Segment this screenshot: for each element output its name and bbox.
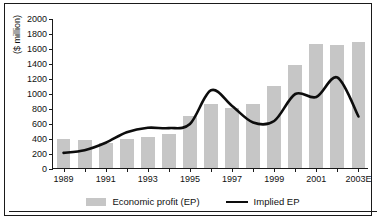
plot-area: 0200400600800100012001400160018002000 19… — [52, 19, 368, 169]
y-axis-title: ($ million) — [12, 15, 22, 54]
legend-label-implied-ep: Implied EP — [254, 196, 300, 207]
y-tick-label: 1000 — [27, 90, 47, 99]
x-tick-label: 2001 — [306, 174, 326, 184]
y-tick — [49, 169, 53, 170]
x-tick-label: 2003E — [345, 174, 371, 184]
chart-figure: ($ million) 0200400600800100012001400160… — [0, 0, 378, 221]
x-tick-label: 1989 — [54, 174, 74, 184]
y-tick-label: 2000 — [27, 15, 47, 24]
y-tick-label: 1400 — [27, 60, 47, 69]
line-series-implied-ep — [53, 19, 369, 169]
y-tick-label: 0 — [42, 165, 47, 174]
legend-item-implied-ep: Implied EP — [226, 196, 300, 207]
y-tick-label: 200 — [32, 150, 47, 159]
y-tick-label: 400 — [32, 135, 47, 144]
x-tick-label: 1995 — [180, 174, 200, 184]
y-tick-label: 800 — [32, 105, 47, 114]
legend-bar-swatch-icon — [86, 198, 106, 206]
chart-legend: Economic profit (EP) Implied EP — [9, 196, 377, 207]
x-tick-label: 1991 — [96, 174, 116, 184]
y-tick-label: 1800 — [27, 30, 47, 39]
legend-item-economic-profit: Economic profit (EP) — [86, 196, 199, 207]
x-tick-label: 1999 — [264, 174, 284, 184]
x-tick-label: 1997 — [222, 174, 242, 184]
y-tick-label: 600 — [32, 120, 47, 129]
x-tick-label: 1993 — [138, 174, 158, 184]
legend-divider — [9, 211, 377, 212]
y-tick-label: 1600 — [27, 45, 47, 54]
y-tick-label: 1200 — [27, 75, 47, 84]
chart-frame: ($ million) 0200400600800100012001400160… — [4, 3, 372, 216]
legend-line-swatch-icon — [226, 201, 248, 203]
legend-label-economic-profit: Economic profit (EP) — [112, 196, 199, 207]
